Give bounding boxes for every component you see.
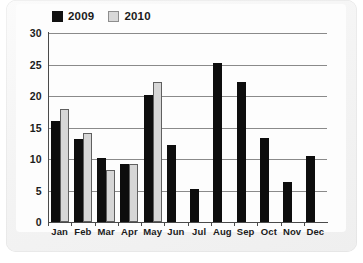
legend-swatch-2009-icon (52, 11, 63, 22)
bar-may-2010 (153, 82, 162, 222)
bar-group-jul (188, 33, 211, 222)
bar-oct-2009 (260, 138, 269, 222)
x-tick-may (141, 222, 164, 227)
bar-sep-2009 (237, 82, 246, 222)
x-tick-label-jun: Jun (164, 226, 187, 237)
x-tick-label-feb: Feb (71, 226, 94, 237)
bar-apr-2009 (120, 164, 129, 222)
legend-swatch-2010-icon (108, 11, 119, 22)
x-tick-label-nov: Nov (281, 226, 304, 237)
bar-jul-2009 (190, 189, 199, 222)
x-tick-label-jul: Jul (188, 226, 211, 237)
y-tick-label-15: 15 (30, 122, 42, 134)
x-tick-label-aug: Aug (211, 226, 234, 237)
legend-label-2010: 2010 (124, 11, 150, 23)
bar-group-oct (257, 33, 280, 222)
bar-mar-2009 (97, 158, 106, 222)
x-axis-tick-marks (48, 222, 327, 227)
x-tick-label-mar: Mar (95, 226, 118, 237)
bar-jan-2009 (51, 121, 60, 222)
bar-group-feb (71, 33, 94, 222)
chart-page: 2009 2010 051015202530 JanFebMarAprMayJu… (0, 0, 363, 263)
x-tick-label-sep: Sep (234, 226, 257, 237)
x-tick-label-dec: Dec (304, 226, 327, 237)
bar-feb-2009 (74, 139, 83, 222)
y-tick-label-0: 0 (36, 216, 42, 228)
bar-group-jun (164, 33, 187, 222)
legend-label-2009: 2009 (68, 11, 94, 23)
y-tick-label-5: 5 (36, 185, 42, 197)
y-tick-label-30: 30 (30, 27, 42, 39)
x-tick-aug (211, 222, 234, 227)
bar-group-aug (211, 33, 234, 222)
chart-legend: 2009 2010 (52, 11, 151, 23)
x-tick-jul (188, 222, 211, 227)
y-tick-label-10: 10 (30, 153, 42, 165)
x-tick-jan (48, 222, 71, 227)
bar-may-2009 (144, 95, 153, 222)
x-tick-nov (281, 222, 304, 227)
bar-group-dec (304, 33, 327, 222)
legend-item-2009: 2009 (52, 11, 94, 23)
bar-group-mar (95, 33, 118, 222)
x-axis-tick-labels: JanFebMarAprMayJunJulAugSepOctNovDec (48, 226, 327, 237)
x-tick-apr (118, 222, 141, 227)
x-tick-mar (95, 222, 118, 227)
bar-nov-2009 (283, 182, 292, 222)
x-tick-sep (234, 222, 257, 227)
x-tick-jun (164, 222, 187, 227)
bar-dec-2009 (306, 156, 315, 222)
bar-group-nov (281, 33, 304, 222)
bar-aug-2009 (213, 63, 222, 222)
bar-group-apr (118, 33, 141, 222)
bar-jan-2010 (60, 109, 69, 222)
x-tick-dec (304, 222, 327, 227)
x-tick-label-jan: Jan (48, 226, 71, 237)
x-tick-feb (71, 222, 94, 227)
bar-group-sep (234, 33, 257, 222)
bar-groups (48, 33, 327, 222)
bar-mar-2010 (106, 170, 115, 222)
x-tick-label-may: May (141, 226, 164, 237)
x-tick-label-oct: Oct (257, 226, 280, 237)
legend-item-2010: 2010 (108, 11, 150, 23)
bar-group-jan (48, 33, 71, 222)
y-tick-label-20: 20 (30, 90, 42, 102)
x-tick-oct (257, 222, 280, 227)
bar-group-may (141, 33, 164, 222)
y-tick-label-25: 25 (30, 59, 42, 71)
bar-jun-2009 (167, 145, 176, 222)
bar-apr-2010 (129, 164, 138, 222)
y-axis-tick-labels: 051015202530 (0, 33, 42, 222)
bar-feb-2010 (83, 133, 92, 222)
x-tick-label-apr: Apr (118, 226, 141, 237)
y-axis-line (48, 32, 49, 223)
